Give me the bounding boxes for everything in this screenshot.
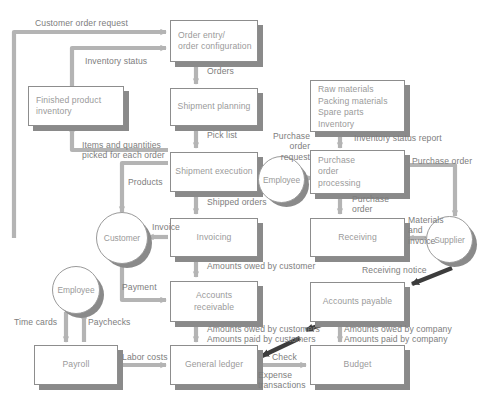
node-receiving[interactable]: Receiving <box>310 218 405 257</box>
label-labor-costs: Labor costs <box>122 352 168 362</box>
node-payroll[interactable]: Payroll <box>34 345 118 385</box>
node-accounts-payable-label: Accounts payable <box>323 296 392 308</box>
node-finished-product-inventory-label: Finished product inventory <box>36 95 101 118</box>
diagram-canvas: Order entry/ order configuration Shipmen… <box>0 0 496 405</box>
node-payroll-label: Payroll <box>63 359 90 371</box>
label-expense-transactions: Expense transactions <box>258 370 306 391</box>
label-purchase-order-right: Purchase order <box>412 156 472 166</box>
label-products: Products <box>128 177 163 187</box>
node-invoicing-label: Invoicing <box>197 232 232 244</box>
label-inventory-status-report: Inventory status report <box>354 133 442 143</box>
label-paychecks: Paychecks <box>88 317 130 327</box>
label-customer-order-request: Customer order request <box>35 18 128 28</box>
node-budget[interactable]: Budget <box>310 345 405 385</box>
node-employee-payroll-label: Employee <box>57 285 94 295</box>
node-shipment-execution-label: Shipment execution <box>175 166 252 178</box>
node-employee-payroll[interactable]: Employee <box>52 266 100 314</box>
flow-inventory-status <box>72 48 166 86</box>
label-purchase-order-down: Purchase order <box>352 194 389 215</box>
label-materials-invoice: Materials and invoice <box>408 215 444 246</box>
node-receiving-label: Receiving <box>338 232 377 244</box>
label-receiving-notice: Receiving notice <box>362 265 427 275</box>
label-amounts-owed-customers: Amounts owed by customers <box>207 324 320 334</box>
flow-products <box>122 163 168 212</box>
label-inventory-status: Inventory status <box>85 56 147 66</box>
node-shipment-execution[interactable]: Shipment execution <box>170 152 258 192</box>
node-order-entry-label: Order entry/ order configuration <box>178 30 252 53</box>
node-budget-label: Budget <box>344 359 372 371</box>
node-employee-purchase-label: Employee <box>263 175 300 185</box>
node-shipment-planning[interactable]: Shipment planning <box>170 88 258 126</box>
node-customer-wrap: Customer <box>96 212 148 264</box>
label-check: Check <box>272 352 297 362</box>
node-purchase-order-processing-label: Purchase order processing <box>318 155 361 190</box>
label-time-cards: Time cards <box>14 317 57 327</box>
node-accounts-receivable[interactable]: Accounts receivable <box>170 281 258 322</box>
node-employee-purchase-wrap: Employee <box>258 156 305 203</box>
node-general-ledger[interactable]: General ledger <box>170 345 258 385</box>
label-amounts-owed-company: Amounts owed by company <box>344 324 452 334</box>
node-customer-label: Customer <box>104 233 140 243</box>
label-amounts-paid-customers: Amounts paid by customers <box>207 334 316 344</box>
node-employee-payroll-wrap: Employee <box>52 266 100 314</box>
node-invoicing[interactable]: Invoicing <box>170 218 258 257</box>
node-employee-purchase[interactable]: Employee <box>258 156 305 203</box>
label-shipped-orders: Shipped orders <box>207 197 267 207</box>
label-pick-list: Pick list <box>207 130 237 140</box>
node-accounts-receivable-label: Accounts receivable <box>194 290 234 313</box>
node-order-entry[interactable]: Order entry/ order configuration <box>170 20 258 62</box>
label-items-quantities: Items and quantities picked for each ord… <box>82 140 165 161</box>
label-orders: Orders <box>207 66 234 76</box>
node-purchase-order-processing[interactable]: Purchase order processing <box>310 150 405 194</box>
node-materials-label: Raw materials Packing materials Spare pa… <box>318 84 388 130</box>
node-finished-product-inventory[interactable]: Finished product inventory <box>28 86 124 126</box>
label-payment: Payment <box>122 282 157 292</box>
node-accounts-payable[interactable]: Accounts payable <box>310 282 405 322</box>
label-amounts-paid-company: Amounts paid by company <box>344 334 448 344</box>
node-materials[interactable]: Raw materials Packing materials Spare pa… <box>310 80 405 132</box>
node-shipment-planning-label: Shipment planning <box>178 101 251 113</box>
node-general-ledger-label: General ledger <box>185 359 243 371</box>
flow-purchase-order-right <box>408 165 455 216</box>
label-amounts-owed-customer: Amounts owed by customer <box>207 261 315 271</box>
node-customer[interactable]: Customer <box>96 212 148 264</box>
label-purchase-order-request: Purchase order request <box>273 131 310 162</box>
label-invoice: Invoice <box>152 222 180 232</box>
